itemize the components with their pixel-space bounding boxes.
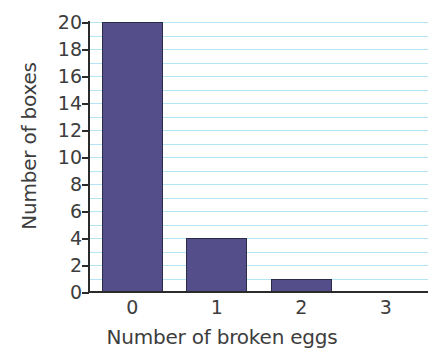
x-axis-line: [88, 291, 428, 293]
plot-area: [90, 22, 428, 292]
bars-layer: [90, 22, 428, 292]
y-axis-tick-label: 18: [44, 40, 82, 59]
y-axis-line: [88, 21, 90, 293]
y-axis-tick-label: 2: [44, 256, 82, 275]
y-axis-tick-label: 10: [44, 148, 82, 167]
y-axis-tick-label: 14: [44, 94, 82, 113]
y-axis-tick-label: 16: [44, 67, 82, 86]
x-axis-tick-label: 0: [126, 297, 138, 318]
bar-chart: Number of boxes 02468101214161820 0123 N…: [0, 0, 444, 363]
x-axis-title: Number of broken eggs: [0, 325, 444, 349]
y-axis-tick-labels: 02468101214161820: [44, 22, 82, 292]
bar: [271, 279, 332, 293]
y-axis-tick-label: 12: [44, 121, 82, 140]
x-axis-tick-labels: 0123: [90, 297, 428, 323]
y-axis-tick-label: 6: [44, 202, 82, 221]
x-axis-tick-label: 2: [295, 297, 307, 318]
bar: [102, 22, 163, 292]
y-axis-tick-label: 0: [44, 283, 82, 302]
y-axis-title: Number of boxes: [10, 0, 48, 292]
y-axis-tick-label: 8: [44, 175, 82, 194]
bar: [186, 238, 247, 292]
y-axis-tick-label: 20: [44, 13, 82, 32]
x-axis-tick-label: 1: [211, 297, 223, 318]
x-axis-tick-label: 3: [380, 297, 392, 318]
y-axis-tick-label: 4: [44, 229, 82, 248]
